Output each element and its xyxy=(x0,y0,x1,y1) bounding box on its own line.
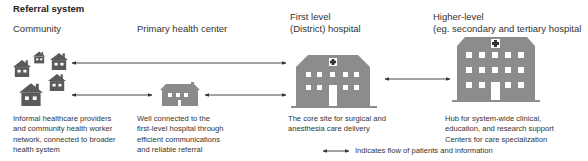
description-line: network, connected to broader xyxy=(13,135,116,145)
large-hospital-icon xyxy=(452,37,540,102)
house-icon xyxy=(160,82,200,106)
legend: Indicates flow of patients and informati… xyxy=(321,146,493,155)
description-line: first-level hospital through xyxy=(137,124,224,134)
description-line: Informal healthcare providers xyxy=(13,114,116,124)
description-line: and community health worker xyxy=(13,124,116,134)
description-higher-level: Hub for system-wide clinical, education,… xyxy=(445,114,554,145)
description-line: health system xyxy=(13,145,116,155)
legend-label: Indicates flow of patients and informati… xyxy=(355,146,493,155)
house-cluster-icon xyxy=(13,52,68,106)
description-line: The core site for surgical and xyxy=(288,114,386,124)
description-line: and reliable referral xyxy=(137,145,224,155)
description-line: education, and research support xyxy=(445,124,554,134)
description-line: Well connected to the xyxy=(137,114,224,124)
description-line: anesthesia care delivery xyxy=(288,124,386,134)
description-first-level: The core site for surgical and anesthesi… xyxy=(288,114,386,135)
description-community: Informal healthcare providers and commun… xyxy=(13,114,116,156)
double-arrow-icon xyxy=(321,147,351,155)
description-line: Centers for care specialization xyxy=(445,135,554,145)
description-primary: Well connected to the first-level hospit… xyxy=(137,114,224,156)
description-line: Hub for system-wide clinical, xyxy=(445,114,554,124)
description-line: efficient communications xyxy=(137,135,224,145)
hospital-icon xyxy=(291,55,377,108)
